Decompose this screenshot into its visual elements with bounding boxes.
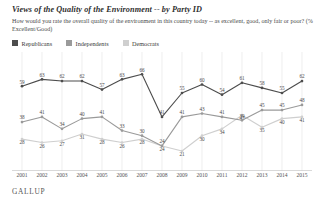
data-point-label: 48 (299, 97, 305, 103)
data-point-label: 41 (219, 109, 225, 115)
data-point-label: 39 (239, 113, 245, 119)
data-point-label: 34 (219, 129, 225, 135)
data-point-label: 38 (19, 114, 25, 120)
data-point-label: 41 (159, 109, 165, 115)
chart-plot-area: 2826273128262824213034423540413841344041… (12, 52, 312, 171)
data-point-label: 35 (259, 127, 265, 133)
data-point[interactable] (221, 116, 224, 119)
data-point-label: 62 (79, 73, 85, 79)
data-point[interactable] (301, 80, 304, 83)
data-point[interactable] (41, 116, 44, 119)
x-axis-tick-label: 2006 (116, 172, 127, 178)
data-point-label: 30 (199, 136, 205, 142)
data-point-label: 55 (179, 85, 185, 91)
x-axis-tick-label: 2008 (156, 172, 167, 178)
data-point[interactable] (81, 80, 84, 83)
x-axis-tick-label: 2002 (36, 172, 47, 178)
data-point[interactable] (101, 88, 104, 91)
data-point[interactable] (101, 116, 104, 119)
legend-item-republicans[interactable]: Republicans (12, 40, 52, 47)
data-point[interactable] (41, 78, 44, 81)
data-point[interactable] (281, 109, 284, 112)
data-point[interactable] (181, 116, 184, 119)
x-axis-tick-label: 2010 (196, 172, 207, 178)
data-point-label: 41 (179, 109, 185, 115)
data-point-label: 59 (19, 79, 25, 85)
x-axis-labels: 2001200220032004200520062007200820092010… (12, 172, 312, 182)
data-point-label: 21 (179, 151, 185, 157)
chart-legend: RepublicansIndependentsDemocrats (12, 38, 159, 48)
data-point-label: 28 (139, 139, 145, 145)
data-point[interactable] (201, 112, 204, 115)
data-point-label: 33 (119, 123, 125, 129)
legend-item-independents[interactable]: Independents (66, 40, 109, 47)
data-point-label: 66 (139, 67, 145, 73)
x-axis-tick-label: 2003 (56, 172, 67, 178)
data-point-label: 57 (99, 82, 105, 88)
data-point-label: 61 (239, 75, 245, 81)
data-point-label: 55 (279, 85, 285, 91)
gallup-chart-page: Views of the Quality of the Environment … (0, 0, 324, 203)
data-point[interactable] (161, 145, 164, 148)
data-point[interactable] (241, 81, 244, 84)
data-point-label: 43 (199, 106, 205, 112)
data-point-label: 63 (119, 72, 125, 78)
legend-label: Republicans (22, 40, 53, 47)
data-point[interactable] (281, 92, 284, 95)
data-point[interactable] (261, 87, 264, 90)
x-axis-tick-label: 2015 (296, 172, 307, 178)
x-axis-tick-label: 2014 (276, 172, 287, 178)
data-point-label: 62 (59, 73, 65, 79)
line-chart-svg: 2826273128262824213034423540413841344041… (12, 52, 312, 171)
data-point-label: 30 (139, 128, 145, 134)
legend-label: Democrats (132, 40, 159, 47)
x-axis-tick-label: 2004 (76, 172, 87, 178)
data-point-label: 58 (259, 80, 265, 86)
x-axis-tick-label: 2007 (136, 172, 147, 178)
x-axis-tick-label: 2012 (236, 172, 247, 178)
data-point[interactable] (61, 80, 64, 83)
data-point[interactable] (201, 83, 204, 86)
data-point-label: 24 (159, 138, 165, 144)
data-point-label: 41 (39, 109, 45, 115)
data-point[interactable] (161, 116, 164, 119)
data-point[interactable] (21, 85, 24, 88)
data-point[interactable] (121, 78, 124, 81)
data-point-label: 26 (39, 143, 45, 149)
data-point[interactable] (141, 134, 144, 137)
legend-swatch-icon (66, 40, 72, 46)
data-point[interactable] (21, 121, 24, 124)
data-point-label: 28 (99, 139, 105, 145)
data-point-label: 41 (99, 109, 105, 115)
data-point[interactable] (61, 128, 64, 131)
data-point[interactable] (141, 73, 144, 76)
data-point[interactable] (121, 129, 124, 132)
data-point-label: 45 (279, 102, 285, 108)
x-axis-tick-label: 2013 (256, 172, 267, 178)
data-point-label: 62 (299, 73, 305, 79)
data-point-label: 26 (119, 143, 125, 149)
data-point-label: 27 (59, 141, 65, 147)
data-point-label: 34 (59, 121, 65, 127)
data-point[interactable] (261, 109, 264, 112)
data-point-label: 45 (259, 102, 265, 108)
x-axis-tick-label: 2001 (16, 172, 27, 178)
data-point-label: 40 (79, 111, 85, 117)
chart-subtitle: How would you rate the overall quality o… (12, 17, 314, 33)
legend-item-democrats[interactable]: Democrats (123, 40, 159, 47)
data-point-label: 28 (19, 139, 25, 145)
data-point[interactable] (241, 119, 244, 122)
data-point[interactable] (301, 104, 304, 107)
data-point-label: 54 (219, 87, 225, 93)
data-point-label: 31 (79, 134, 85, 140)
data-point-label: 60 (199, 77, 205, 83)
x-axis-tick-label: 2011 (217, 172, 228, 178)
data-point-label: 40 (279, 119, 285, 125)
legend-label: Independents (76, 40, 109, 47)
data-point-label: 41 (299, 117, 305, 123)
data-point[interactable] (181, 92, 184, 95)
data-point[interactable] (221, 93, 224, 96)
data-point[interactable] (81, 117, 84, 120)
x-axis-tick-label: 2009 (176, 172, 187, 178)
data-point-label: 63 (39, 72, 45, 78)
